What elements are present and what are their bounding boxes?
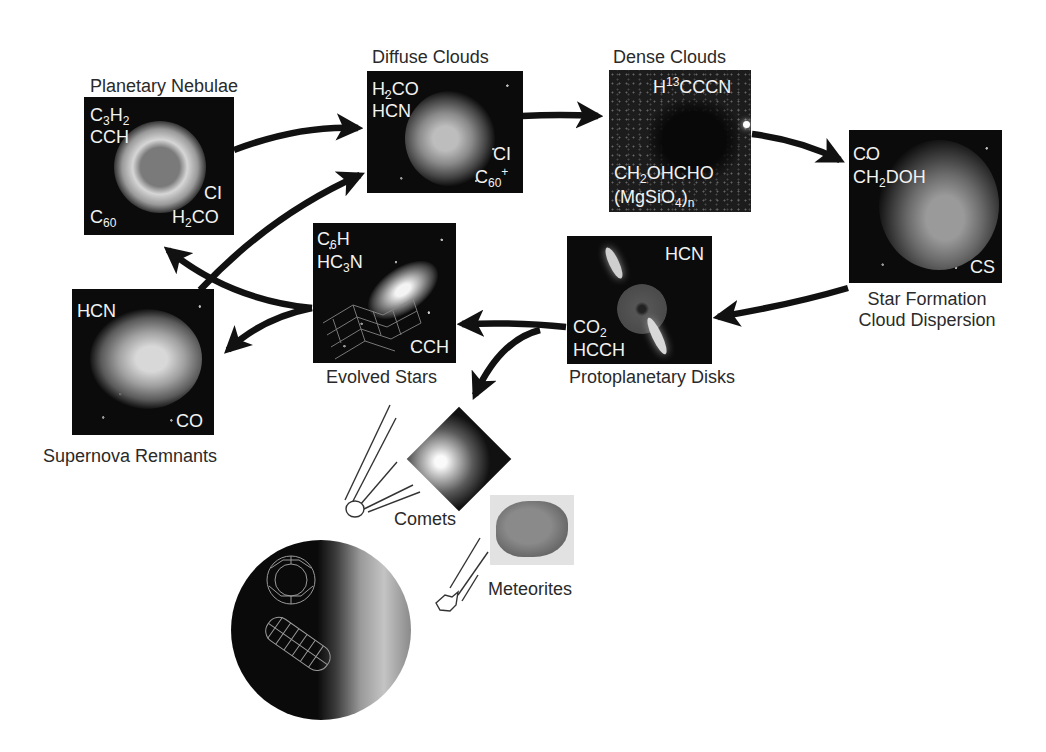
molecule-c3h2: C3H2 bbox=[90, 105, 129, 125]
arrow-protoplanetary-to-comets bbox=[475, 330, 540, 395]
molecule-cs: CS bbox=[970, 257, 995, 277]
star-formation-image: CO CH2DOH CS bbox=[849, 130, 1002, 283]
star-formation-title-line1: Star Formation bbox=[852, 289, 1002, 310]
molecule-cch: CCH bbox=[90, 127, 129, 147]
meteorites-image bbox=[490, 495, 574, 565]
molecule-hcn: HCN bbox=[372, 101, 411, 121]
arrow-protoplanetary-to-evolved bbox=[462, 323, 566, 327]
diffuse-clouds-title: Diffuse Clouds bbox=[372, 47, 489, 68]
molecule-ch2doh: CH2DOH bbox=[853, 167, 926, 187]
dense-clouds-title: Dense Clouds bbox=[613, 47, 726, 68]
planetary-nebulae-title: Planetary Nebulae bbox=[90, 76, 238, 97]
molecule-h2co: H2CO bbox=[372, 79, 419, 99]
molecule-co2: CO2 bbox=[573, 317, 607, 337]
nanotube-icon bbox=[261, 613, 335, 676]
meteorites-title: Meteorites bbox=[488, 579, 572, 600]
comets-title: Comets bbox=[394, 509, 456, 530]
molecule-ch2ohcho: CH2OHCHO bbox=[614, 163, 714, 183]
arrow-diffuse-to-dense bbox=[522, 115, 598, 116]
star-formation-title: Star Formation Cloud Dispersion bbox=[852, 289, 1002, 331]
molecule-mgsio4-n: (MgSiO4)n bbox=[614, 187, 694, 207]
molecule-ci: CI bbox=[204, 183, 222, 203]
star-formation-title-line2: Cloud Dispersion bbox=[852, 310, 1002, 331]
planetary-nebulae-image: C3H2 CCH CI H2CO C60 bbox=[84, 97, 234, 235]
evolved-stars-image: C6H HC3N CCH bbox=[313, 223, 456, 363]
molecule-c6h: C6H bbox=[317, 229, 350, 249]
molecule-hc3n: HC3N bbox=[317, 252, 363, 272]
supernova-remnants-title: Supernova Remnants bbox=[43, 446, 217, 467]
arrow-dense-to-starformation bbox=[752, 134, 840, 160]
molecule-co: CO bbox=[853, 144, 880, 164]
molecule-hcch: HCCH bbox=[573, 340, 625, 360]
molecule-c60: C60 bbox=[90, 207, 116, 227]
molecule-c60-plus: C60+ bbox=[475, 167, 508, 187]
molecule-ci: CI bbox=[493, 144, 511, 164]
arrow-starformation-to-protoplanetary bbox=[718, 288, 848, 317]
molecule-co: CO bbox=[176, 411, 203, 431]
dense-clouds-image: H13CCCN CH2OHCHO (MgSiO4)n bbox=[609, 70, 751, 212]
protoplanetary-disks-image: HCN CO2 HCCH bbox=[567, 236, 712, 364]
carbon-nanostructures-illustration bbox=[231, 540, 411, 720]
molecule-h2co: H2CO bbox=[172, 207, 219, 227]
molecule-cch: CCH bbox=[410, 337, 449, 357]
cosmic-cycle-diagram: Planetary Nebulae C3H2 CCH CI H2CO C60 D… bbox=[0, 0, 1046, 752]
arrow-evolved-to-supernova bbox=[228, 308, 312, 350]
molecule-h13cccn: H13CCCN bbox=[653, 77, 731, 97]
evolved-stars-title: Evolved Stars bbox=[326, 367, 437, 388]
protoplanetary-disks-title: Protoplanetary Disks bbox=[569, 367, 735, 388]
molecule-hcn: HCN bbox=[77, 301, 116, 321]
arrow-planetary-to-diffuse bbox=[234, 128, 358, 150]
earth-image bbox=[231, 540, 411, 720]
diffuse-clouds-image: H2CO HCN CI C60+ bbox=[367, 71, 523, 193]
supernova-remnants-image: HCN CO bbox=[72, 289, 214, 435]
meteorite-trail-lines bbox=[436, 538, 488, 611]
molecule-hcn: HCN bbox=[665, 244, 704, 264]
